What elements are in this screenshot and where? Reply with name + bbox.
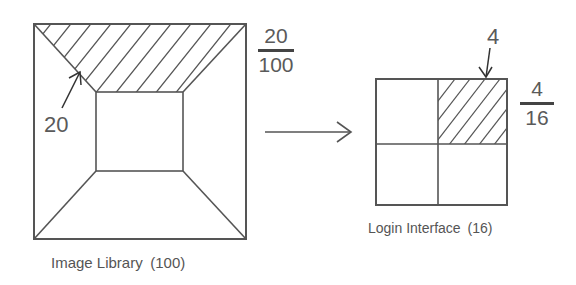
pointer-arrow-4 (479, 48, 492, 77)
grid-outer (376, 79, 507, 205)
fraction-bar (258, 49, 294, 52)
fraction-4-16: 4 16 (520, 78, 554, 128)
image-library-caption: Image Library (100) (51, 254, 185, 271)
pointer-arrow-20 (62, 72, 81, 108)
fraction-20-100: 20 100 (258, 25, 294, 75)
fraction-denominator: 16 (525, 107, 548, 128)
fraction-numerator: 20 (264, 25, 287, 46)
right-arrow-icon (265, 122, 351, 142)
fraction-bar (520, 102, 554, 105)
login-interface-caption: Login Interface (16) (368, 220, 493, 236)
fraction-numerator: 4 (531, 78, 543, 99)
inner-square (96, 92, 183, 171)
pointer-label-20: 20 (44, 112, 68, 138)
fraction-denominator: 100 (258, 54, 293, 75)
pointer-label-4: 4 (487, 24, 499, 50)
